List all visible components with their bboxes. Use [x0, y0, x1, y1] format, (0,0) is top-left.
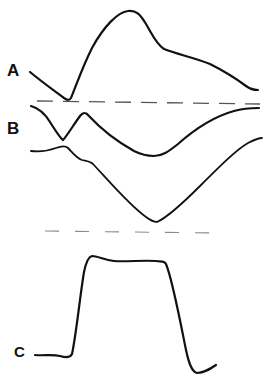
trace-a-curve — [30, 11, 258, 100]
trace-b-label: B — [7, 119, 19, 138]
trace-c-curve — [35, 256, 216, 373]
trace-c-label: C — [14, 343, 25, 360]
trace-a-label: A — [7, 61, 19, 80]
baseline-b — [45, 231, 218, 233]
waveform-figure: A B C — [0, 0, 272, 378]
baseline-a — [37, 101, 260, 104]
trace-b-upper-curve — [31, 106, 259, 156]
trace-b-lower-curve — [31, 138, 262, 222]
